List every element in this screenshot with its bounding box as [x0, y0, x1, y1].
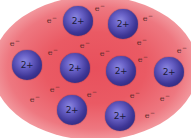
metal-cation: 2+ — [63, 6, 93, 36]
ion-charge-label: 2+ — [72, 16, 85, 26]
electron: e− — [10, 38, 20, 48]
ion-charge-label: 2+ — [117, 19, 130, 29]
electron: e− — [47, 15, 57, 25]
electron-charge: − — [150, 109, 155, 116]
electron-charge: − — [165, 92, 170, 99]
metal-cation: 2+ — [154, 57, 184, 87]
electron: e− — [177, 45, 187, 55]
electron-charge: − — [182, 44, 187, 51]
electron-charge: − — [92, 88, 97, 95]
electron: e− — [30, 94, 40, 104]
electron-charge: − — [148, 12, 153, 19]
electron: e− — [138, 54, 148, 64]
electron-charge: − — [55, 83, 60, 90]
ion-charge-label: 2+ — [66, 105, 79, 115]
ion-charge-label: 2+ — [69, 63, 82, 73]
ion-charge-label: 2+ — [163, 67, 176, 77]
electron: e− — [50, 84, 60, 94]
electron: e− — [130, 90, 140, 100]
metal-cation: 2+ — [105, 101, 135, 131]
electron: e− — [87, 89, 97, 99]
electron-charge: − — [143, 53, 148, 60]
ion-charge-label: 2+ — [21, 60, 34, 70]
electron: e− — [160, 93, 170, 103]
metal-cation: 2+ — [60, 53, 90, 83]
electron: e− — [95, 3, 105, 13]
ion-charge-label: 2+ — [114, 111, 127, 121]
metal-cation: 2+ — [57, 95, 87, 125]
electron-charge: − — [35, 93, 40, 100]
electron: e− — [145, 110, 155, 120]
electron: e− — [100, 48, 110, 58]
electron-charge: − — [100, 2, 105, 9]
electron-charge: − — [53, 46, 58, 53]
metal-cation: 2+ — [12, 50, 42, 80]
electron-charge: − — [85, 39, 90, 46]
ion-charge-label: 2+ — [115, 66, 128, 76]
electron-charge: − — [142, 36, 147, 43]
metallic-bonding-diagram: 2+ 2+ 2+ 2+ 2+ 2+ 2+ 2+ e− e− e− e− e− e… — [0, 0, 191, 138]
electron-charge: − — [105, 47, 110, 54]
electron-charge: − — [135, 89, 140, 96]
electron: e− — [137, 37, 147, 47]
metal-cation: 2+ — [106, 56, 136, 86]
metal-cation: 2+ — [108, 9, 138, 39]
electron-charge: − — [52, 14, 57, 21]
electron: e− — [143, 13, 153, 23]
electron: e− — [80, 40, 90, 50]
electron-charge: − — [15, 37, 20, 44]
electron: e− — [48, 47, 58, 57]
